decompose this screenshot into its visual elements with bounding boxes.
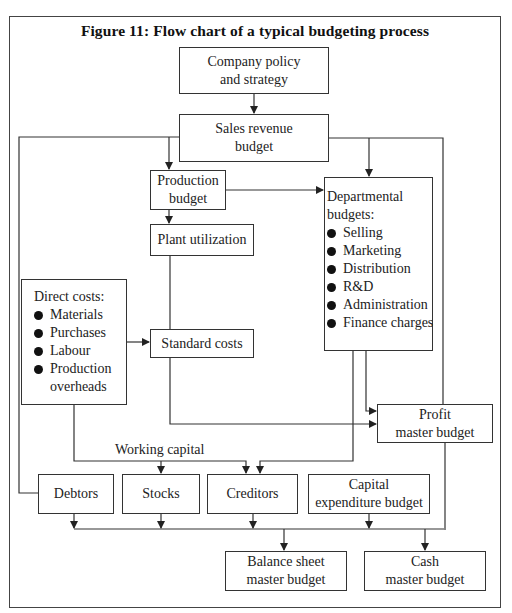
node-text: Creditors xyxy=(226,485,278,503)
node-text: Stocks xyxy=(142,485,179,503)
list-item: Selling xyxy=(327,224,383,242)
node-text: Standard costs xyxy=(161,335,242,353)
list-item: Finance charges xyxy=(327,314,433,332)
node-text: expenditure budget xyxy=(315,494,423,512)
node-text: Production xyxy=(157,172,218,190)
bullet-icon xyxy=(327,229,336,238)
bullet-icon xyxy=(34,347,43,356)
list-item: Production xyxy=(34,360,111,378)
bullet-icon xyxy=(327,247,336,256)
list-item-text: Selling xyxy=(343,224,383,242)
node-text: Company policy xyxy=(208,53,301,71)
list-item-text: Finance charges xyxy=(343,314,433,332)
list-item: Administration xyxy=(327,296,428,314)
node-text: master budget xyxy=(386,571,465,589)
node-direct-costs: Direct costs: Materials Purchases Labour… xyxy=(21,279,127,405)
node-text: Cash xyxy=(411,553,439,571)
node-heading: Direct costs: xyxy=(34,288,104,306)
node-sales-revenue-budget: Sales revenue budget xyxy=(179,114,329,162)
node-text: Plant utilization xyxy=(157,231,246,249)
list-item: Distribution xyxy=(327,260,411,278)
node-text: Profit xyxy=(419,406,451,424)
bullet-icon xyxy=(327,265,336,274)
node-balance-sheet-master-budget: Balance sheet master budget xyxy=(225,551,347,591)
node-debtors: Debtors xyxy=(38,474,114,514)
bullet-icon xyxy=(327,301,336,310)
bullet-icon xyxy=(34,365,43,374)
node-company-policy: Company policy and strategy xyxy=(179,47,329,94)
list-item: R&D xyxy=(327,278,373,296)
node-plant-utilization: Plant utilization xyxy=(150,224,254,256)
node-text: Debtors xyxy=(54,485,98,503)
node-production-budget: Production budget xyxy=(150,170,226,210)
node-text: master budget xyxy=(247,571,326,589)
bullet-icon xyxy=(327,319,336,328)
list-item: Labour xyxy=(34,342,90,360)
node-capital-expenditure-budget: Capital expenditure budget xyxy=(308,474,430,514)
node-text: Balance sheet xyxy=(247,553,324,571)
node-text: Capital xyxy=(349,476,389,494)
node-text: budget xyxy=(235,138,273,156)
working-capital-label: Working capital xyxy=(115,442,204,458)
list-item-text: Marketing xyxy=(343,242,401,260)
node-text: budget xyxy=(169,190,207,208)
node-departmental-budgets: Departmental budgets: Selling Marketing … xyxy=(324,177,433,351)
bullet-icon xyxy=(34,311,43,320)
list-item-text: R&D xyxy=(343,278,373,296)
node-text: master budget xyxy=(396,424,475,442)
bullet-icon xyxy=(34,329,43,338)
list-item-text: Purchases xyxy=(50,324,106,342)
node-profit-master-budget: Profit master budget xyxy=(377,404,493,443)
node-creditors: Creditors xyxy=(207,474,298,514)
list-item-text: Distribution xyxy=(343,260,411,278)
list-item-text: Production xyxy=(50,360,111,378)
node-text: Sales revenue xyxy=(215,120,292,138)
list-item-text: Materials xyxy=(50,306,103,324)
node-standard-costs: Standard costs xyxy=(150,329,254,358)
node-heading: Departmental xyxy=(327,188,403,206)
node-cash-master-budget: Cash master budget xyxy=(364,551,486,591)
list-item: Marketing xyxy=(327,242,401,260)
node-stocks: Stocks xyxy=(122,474,200,514)
list-item: Materials xyxy=(34,306,103,324)
list-item: Purchases xyxy=(34,324,106,342)
node-heading: budgets: xyxy=(327,206,374,224)
list-item-text: Labour xyxy=(50,342,90,360)
list-item-text: Administration xyxy=(343,296,428,314)
bullet-icon xyxy=(327,283,336,292)
list-item-continuation: overheads xyxy=(34,378,107,396)
node-text: and strategy xyxy=(220,71,288,89)
